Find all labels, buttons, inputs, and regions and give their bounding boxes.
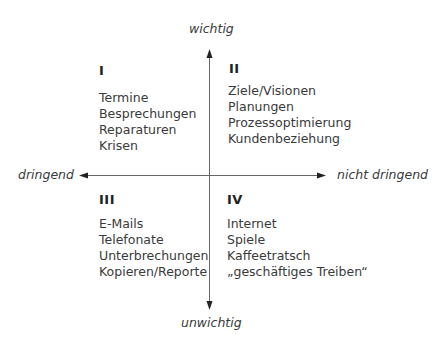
list-item: Termine xyxy=(99,90,196,106)
quadrant-3-list: E-Mails Telefonate Unterbrechungen Kopie… xyxy=(99,216,208,280)
list-item: Kaffeetratsch xyxy=(227,248,368,264)
quadrant-4-list: Internet Spiele Kaffeetratsch „geschäfti… xyxy=(227,216,368,280)
quadrant-2-list: Ziele/Visionen Planungen Prozessoptimier… xyxy=(228,83,351,147)
list-item: Telefonate xyxy=(99,232,208,248)
arrow-left-icon xyxy=(79,173,88,179)
list-item: Prozessoptimierung xyxy=(228,115,351,131)
axis-label-unimportant: unwichtig xyxy=(181,315,242,330)
quadrant-2-numeral: II xyxy=(229,61,240,76)
list-item: Kundenbeziehung xyxy=(228,131,351,147)
list-item: Spiele xyxy=(227,232,368,248)
list-item: Besprechungen xyxy=(99,106,196,122)
list-item: Ziele/Visionen xyxy=(228,83,351,99)
arrow-right-icon xyxy=(317,173,326,179)
list-item: Unterbrechungen xyxy=(99,248,208,264)
list-item: Reparaturen xyxy=(99,122,196,138)
arrow-down-icon xyxy=(207,301,213,310)
list-item: E-Mails xyxy=(99,216,208,232)
quadrant-3-numeral: III xyxy=(99,192,115,207)
quadrant-1-numeral: I xyxy=(99,63,104,78)
quadrant-1-list: Termine Besprechungen Reparaturen Krisen xyxy=(99,90,196,154)
axis-label-not-urgent: nicht dringend xyxy=(337,167,428,182)
list-item: „geschäftiges Treiben“ xyxy=(227,264,368,280)
list-item: Krisen xyxy=(99,138,196,154)
list-item: Kopieren/Reporte xyxy=(99,264,208,280)
axis-label-important: wichtig xyxy=(189,21,234,36)
list-item: Planungen xyxy=(228,99,351,115)
arrow-up-icon xyxy=(207,49,213,58)
axis-label-urgent: dringend xyxy=(18,167,74,182)
quadrant-4-numeral: IV xyxy=(227,192,243,207)
list-item: Internet xyxy=(227,216,368,232)
